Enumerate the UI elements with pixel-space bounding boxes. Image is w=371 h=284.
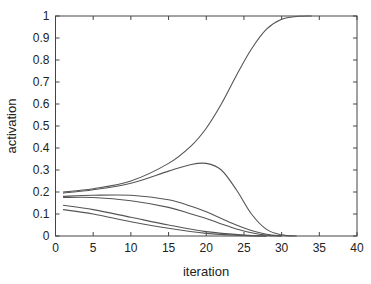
plot-area [56, 16, 358, 236]
y-tick-label: 1 [43, 9, 50, 23]
series-line-unit-2 [63, 163, 297, 236]
y-tick-label: 0.5 [33, 119, 50, 133]
line-chart: 00.10.20.30.40.50.60.70.80.91 0510152025… [0, 0, 371, 284]
y-axis-label: activation [4, 99, 19, 154]
y-tick-label: 0.7 [33, 75, 50, 89]
x-tick-label: 20 [200, 241, 214, 255]
x-tick-label: 30 [275, 241, 289, 255]
y-tick-label: 0.9 [33, 31, 50, 45]
y-tick-label: 0.3 [33, 163, 50, 177]
x-tick-label: 15 [162, 241, 176, 255]
series-line-unit-5 [63, 205, 267, 236]
x-tick-label: 40 [350, 241, 364, 255]
x-tick-label: 25 [237, 241, 251, 255]
x-tick-label: 0 [52, 241, 59, 255]
plot-frame [56, 16, 358, 236]
y-tick-label: 0 [43, 229, 50, 243]
data-lines [63, 16, 312, 236]
y-tick-label: 0.2 [33, 185, 50, 199]
x-axis-label: iteration [183, 264, 229, 279]
y-tick-label: 0.4 [33, 141, 50, 155]
y-tick-label: 0.6 [33, 97, 50, 111]
x-tick-label: 5 [90, 241, 97, 255]
x-tick-label: 35 [313, 241, 327, 255]
y-tick-label: 0.1 [33, 207, 50, 221]
series-line-unit-3 [63, 195, 282, 236]
x-tick-label: 10 [124, 241, 138, 255]
y-tick-label: 0.8 [33, 53, 50, 67]
